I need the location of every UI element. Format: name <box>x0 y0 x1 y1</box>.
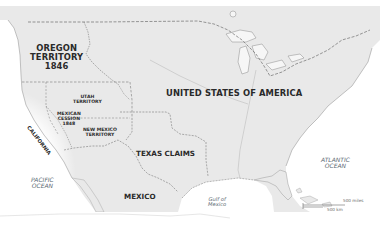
label-mexico: MEXICO <box>124 193 156 201</box>
utah-line-2: TERRITORY <box>73 100 102 105</box>
label-pacific-ocean: PACIFIC OCEAN <box>31 177 54 190</box>
label-gulf-of-mexico: Gulf of Mexico <box>208 197 226 208</box>
label-oregon-territory: OREGON TERRITORY 1846 <box>30 44 83 70</box>
usa-line-1: UNITED STATES OF AMERICA <box>166 89 302 98</box>
cession-line-3: 1848 <box>57 122 81 127</box>
top-white-strip <box>0 0 380 6</box>
atlantic-line-2: OCEAN <box>321 163 350 169</box>
pacific-line-2: OCEAN <box>31 183 54 189</box>
mexico-line-1: MEXICO <box>124 193 156 201</box>
label-usa: UNITED STATES OF AMERICA <box>166 89 302 98</box>
newmexico-line-2: TERRITORY <box>83 133 117 138</box>
oregon-line-3: 1846 <box>30 62 83 71</box>
label-texas-claims: TEXAS CLAIMS <box>136 150 195 158</box>
label-atlantic-ocean: ATLANTIC OCEAN <box>321 157 350 170</box>
scale-km-label: 500 km <box>327 208 343 212</box>
label-mexican-cession: MEXICAN CESSION 1848 <box>57 112 81 126</box>
scale-miles-label: 500 miles <box>343 199 364 203</box>
label-new-mexico-territory: NEW MEXICO TERRITORY <box>83 128 117 138</box>
gulf-line-2: Mexico <box>208 202 226 207</box>
label-utah-territory: UTAH TERRITORY <box>73 95 102 105</box>
texas-line-1: TEXAS CLAIMS <box>136 150 195 158</box>
